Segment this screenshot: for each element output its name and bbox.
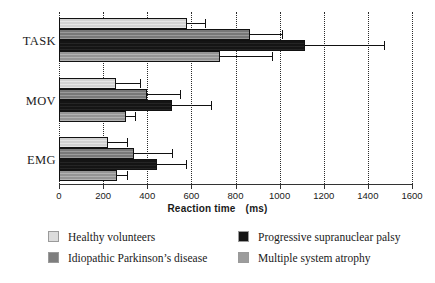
legend-swatch-icon-healthy-volunteers <box>48 231 59 242</box>
bar-row <box>59 111 412 122</box>
category-label-task: TASK <box>0 34 56 49</box>
bar-emg-series-1 <box>59 148 134 159</box>
bar-row <box>59 137 412 148</box>
x-tick-1200 <box>324 184 325 189</box>
x-tick-label-1600: 1600 <box>392 190 432 201</box>
legend-item-healthy-volunteers: Healthy volunteers <box>48 228 155 245</box>
bar-mov-series-3 <box>59 111 126 122</box>
legend: Healthy volunteers Idiopathic Parkinson’… <box>0 228 435 274</box>
legend-label-progressive-supranuclear-palsy: Progressive supranuclear palsy <box>258 231 400 243</box>
x-tick-label-0: 0 <box>39 190 79 201</box>
legend-item-progressive-supranuclear-palsy: Progressive supranuclear palsy <box>238 228 400 245</box>
x-tick-label-1400: 1400 <box>348 190 388 201</box>
plot-area <box>59 12 412 184</box>
x-tick-1000 <box>280 184 281 189</box>
x-tick-label-200: 200 <box>83 190 123 201</box>
bar-row <box>59 40 412 51</box>
error-cap-emg-series-3 <box>127 171 128 180</box>
legend-label-healthy-volunteers: Healthy volunteers <box>68 231 155 243</box>
x-tick-1600 <box>412 184 413 189</box>
bar-emg-series-2 <box>59 159 157 170</box>
error-cap-mov-series-1 <box>180 90 181 99</box>
error-cap-mov-series-3 <box>135 112 136 121</box>
bar-task-series-0 <box>59 18 187 29</box>
legend-swatch-icon-idiopathic-parkinsons-disease <box>48 252 59 263</box>
legend-label-idiopathic-parkinsons-disease: Idiopathic Parkinson’s disease <box>68 252 207 264</box>
error-cap-emg-series-2 <box>186 160 187 169</box>
bar-emg-series-3 <box>59 170 117 181</box>
bar-row <box>59 148 412 159</box>
error-cap-mov-series-2 <box>211 101 212 110</box>
bar-emg-series-0 <box>59 137 108 148</box>
error-cap-task-series-0 <box>205 19 206 28</box>
bar-row <box>59 51 412 62</box>
error-bar-task-series-2 <box>305 45 384 46</box>
bar-row <box>59 100 412 111</box>
bar-row <box>59 78 412 89</box>
x-axis-title: Reaction time (ms) <box>0 203 435 214</box>
x-tick-400 <box>147 184 148 189</box>
legend-item-multiple-system-atrophy: Multiple system atrophy <box>238 249 370 266</box>
x-tick-0 <box>59 184 60 189</box>
error-cap-mov-series-0 <box>140 79 141 88</box>
bar-mov-series-1 <box>59 89 147 100</box>
error-bar-mov-series-2 <box>172 105 211 106</box>
error-cap-task-series-3 <box>272 52 273 61</box>
error-bar-mov-series-1 <box>147 94 180 95</box>
x-tick-1400 <box>368 184 369 189</box>
bar-group-task <box>59 18 412 62</box>
bar-mov-series-2 <box>59 100 172 111</box>
x-axis-title-unit: (ms) <box>246 203 268 214</box>
bar-row <box>59 159 412 170</box>
x-tick-label-600: 600 <box>171 190 211 201</box>
bar-row <box>59 89 412 100</box>
error-bar-emg-series-3 <box>117 175 127 176</box>
category-label-emg: EMG <box>0 153 56 168</box>
legend-swatch-icon-progressive-supranuclear-palsy <box>238 231 249 242</box>
bar-row <box>59 29 412 40</box>
error-bar-emg-series-1 <box>134 153 172 154</box>
x-tick-800 <box>236 184 237 189</box>
bar-row <box>59 170 412 181</box>
error-bar-emg-series-0 <box>108 142 127 143</box>
error-cap-emg-series-0 <box>127 138 128 147</box>
category-label-mov: MOV <box>0 94 56 109</box>
bar-row <box>59 18 412 29</box>
error-cap-task-series-1 <box>282 30 283 39</box>
error-bar-task-series-0 <box>187 23 205 24</box>
legend-swatch-icon-multiple-system-atrophy <box>238 252 249 263</box>
bar-mov-series-0 <box>59 78 116 89</box>
bar-task-series-2 <box>59 40 305 51</box>
x-tick-200 <box>103 184 104 189</box>
bar-task-series-3 <box>59 51 220 62</box>
error-cap-task-series-2 <box>384 41 385 50</box>
x-axis-title-text: Reaction time <box>167 203 235 214</box>
error-bar-mov-series-3 <box>126 116 135 117</box>
x-tick-label-1200: 1200 <box>304 190 344 201</box>
x-tick-label-1000: 1000 <box>260 190 300 201</box>
bar-group-emg <box>59 137 412 181</box>
x-tick-label-800: 800 <box>216 190 256 201</box>
bar-group-mov <box>59 78 412 122</box>
error-bar-emg-series-2 <box>157 164 186 165</box>
legend-label-multiple-system-atrophy: Multiple system atrophy <box>258 252 370 264</box>
error-bar-task-series-1 <box>250 34 282 35</box>
bar-task-series-1 <box>59 29 250 40</box>
x-tick-600 <box>191 184 192 189</box>
error-bar-mov-series-0 <box>116 83 140 84</box>
error-cap-emg-series-1 <box>172 149 173 158</box>
legend-item-idiopathic-parkinsons-disease: Idiopathic Parkinson’s disease <box>48 249 207 266</box>
gridline-1600 <box>412 12 413 184</box>
error-bar-task-series-3 <box>220 56 272 57</box>
reaction-time-bar-chart: TASK MOV EMG 020040060080010001200140016… <box>0 0 435 283</box>
x-tick-label-400: 400 <box>127 190 167 201</box>
